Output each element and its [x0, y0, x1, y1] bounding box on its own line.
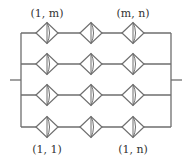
- diamond-element-icon: [80, 85, 102, 106]
- diamond-element-icon: [122, 117, 144, 138]
- label-bottom-right: (1, n): [118, 143, 148, 156]
- diamond-element-icon: [122, 85, 144, 106]
- diamond-element-icon: [36, 85, 58, 106]
- diamond-element-icon: [36, 23, 58, 44]
- parallel-series-network-diagram: (1, m) (m, n) (1, 1) (1, n): [0, 0, 187, 160]
- network-elements: [36, 23, 144, 138]
- diamond-element-icon: [80, 23, 102, 44]
- label-top-right: (m, n): [116, 7, 149, 20]
- diamond-element-icon: [80, 117, 102, 138]
- diamond-element-icon: [36, 54, 58, 75]
- diamond-element-icon: [122, 54, 144, 75]
- label-bottom-left: (1, 1): [32, 143, 62, 156]
- network-wires: [10, 33, 182, 127]
- diamond-element-icon: [36, 117, 58, 138]
- diamond-element-icon: [80, 54, 102, 75]
- label-top-left: (1, m): [30, 7, 63, 20]
- diamond-element-icon: [122, 23, 144, 44]
